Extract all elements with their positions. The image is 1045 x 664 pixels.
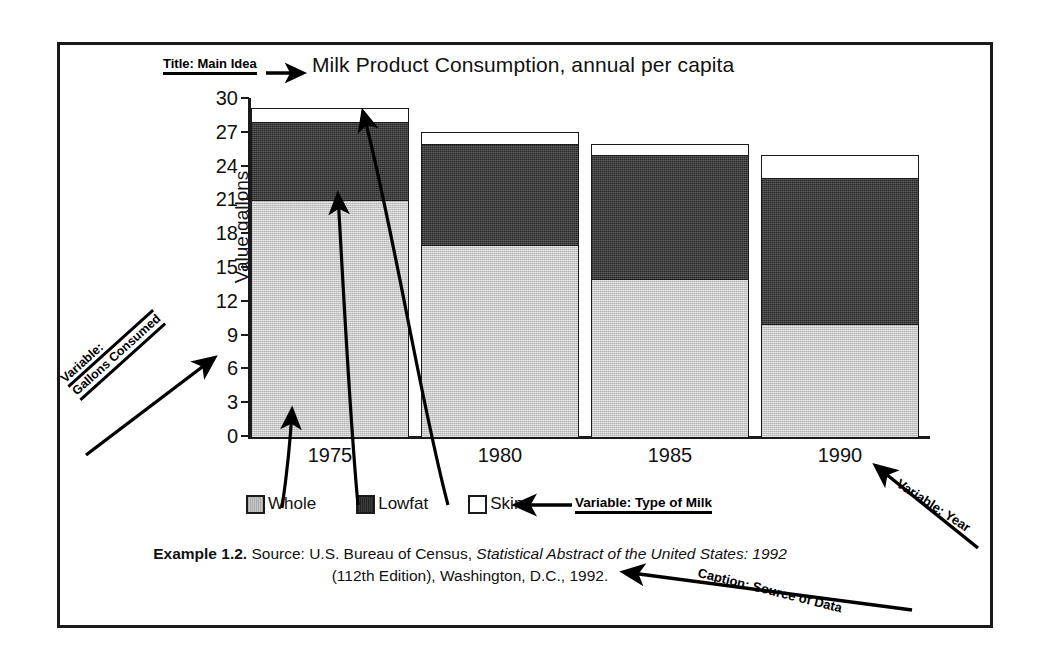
y-axis-tick-label: 9 — [227, 323, 238, 346]
y-axis-tick-label: 21 — [216, 188, 238, 211]
bar-group[interactable] — [251, 100, 409, 438]
y-axis-tick-mark — [241, 232, 249, 234]
legend-label: Whole — [268, 494, 316, 514]
legend-swatch-skim — [468, 495, 487, 514]
y-axis-tick-mark — [241, 367, 249, 369]
y-axis-tick-label: 12 — [216, 289, 238, 312]
y-axis-tick-mark — [241, 97, 249, 99]
annotation-milk-type-callout: Variable: Type of Milk — [575, 495, 712, 514]
legend-label: Lowfat — [378, 494, 428, 514]
legend-label: Skim — [490, 494, 528, 514]
bar-series-container: 1975198019851990 — [251, 98, 931, 438]
caption-source-prefix: Source: U.S. Bureau of Census, — [247, 545, 476, 562]
bar-group[interactable] — [591, 100, 749, 438]
bar-segment-lowfat[interactable] — [761, 177, 919, 325]
legend-swatch-whole — [246, 495, 265, 514]
bar-group[interactable] — [761, 100, 919, 438]
bar-segment-lowfat[interactable] — [251, 121, 409, 201]
bar-segment-whole[interactable] — [591, 279, 749, 438]
y-axis-tick-mark — [241, 401, 249, 403]
caption-example-label: Example 1.2. — [153, 545, 247, 562]
bar-segment-skim[interactable] — [421, 132, 579, 145]
legend-swatch-lowfat — [356, 495, 375, 514]
y-axis-tick-mark — [241, 300, 249, 302]
annotation-title-callout: Title: Main Idea — [163, 56, 257, 75]
y-axis-tick-mark — [241, 131, 249, 133]
caption-source-suffix: (112th Edition), Washington, D.C., 1992. — [332, 567, 609, 584]
x-axis-tick-label: 1990 — [761, 444, 919, 467]
y-axis-tick-mark — [241, 435, 249, 437]
y-axis-tick-mark — [241, 266, 249, 268]
chart-plot-area: Value gallons 036912151821242730 1975198… — [186, 98, 946, 448]
y-axis-tick-label: 24 — [216, 154, 238, 177]
y-axis-tick-label: 0 — [227, 425, 238, 448]
bar-segment-skim[interactable] — [761, 155, 919, 179]
y-axis-tick-label: 6 — [227, 357, 238, 380]
bar-segment-whole[interactable] — [761, 324, 919, 438]
y-axis-tick-labels: 036912151821242730 — [186, 98, 242, 438]
y-axis-tick-mark — [241, 198, 249, 200]
x-axis-tick-label: 1985 — [591, 444, 749, 467]
chart-legend: WholeLowfatSkim — [246, 494, 528, 514]
y-axis-tick-label: 18 — [216, 222, 238, 245]
y-axis-tick-mark — [241, 165, 249, 167]
y-axis-tick-label: 30 — [216, 87, 238, 110]
x-axis-tick-label: 1975 — [251, 444, 409, 467]
x-axis-tick-label: 1980 — [421, 444, 579, 467]
y-axis-tick-label: 15 — [216, 256, 238, 279]
caption-source-title: Statistical Abstract of the United State… — [476, 545, 786, 562]
bar-segment-lowfat[interactable] — [421, 144, 579, 247]
bar-segment-lowfat[interactable] — [591, 155, 749, 280]
bar-segment-whole[interactable] — [251, 200, 409, 438]
bar-segment-skim[interactable] — [591, 144, 749, 157]
legend-item-lowfat[interactable]: Lowfat — [356, 494, 428, 514]
legend-item-whole[interactable]: Whole — [246, 494, 316, 514]
y-axis-tick-label: 27 — [216, 120, 238, 143]
bar-group[interactable] — [421, 100, 579, 438]
bar-segment-skim[interactable] — [251, 108, 409, 123]
y-axis-tick-label: 3 — [227, 391, 238, 414]
bar-segment-whole[interactable] — [421, 245, 579, 438]
legend-item-skim[interactable]: Skim — [468, 494, 528, 514]
chart-title: Milk Product Consumption, annual per cap… — [312, 53, 734, 77]
y-axis-tick-mark — [241, 334, 249, 336]
